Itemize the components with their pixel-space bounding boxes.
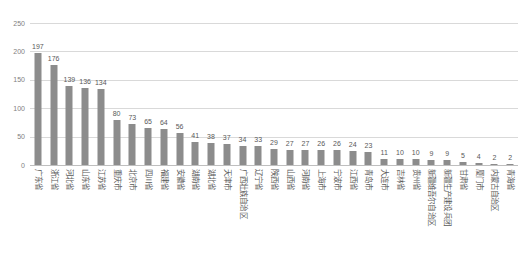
x-axis-tick-label: 新疆维吾尔自治区: [427, 169, 435, 226]
bar: [381, 159, 388, 165]
x-axis-tick-label: 福建省: [160, 169, 168, 190]
bar-chart: 050100150200250 197广东省176浙江省139河北省136山东省…: [0, 0, 524, 258]
x-axis-tick-label: 江西省: [349, 169, 357, 190]
x-axis-tick-label: 吉林省: [396, 169, 404, 190]
bar-value-label: 33: [254, 136, 262, 143]
bar-group: 29陕西省: [266, 0, 282, 258]
x-axis-tick-label: 内蒙古自治区: [490, 169, 498, 212]
bar: [318, 150, 325, 165]
x-axis-tick-label: 新疆生产建设兵团: [443, 169, 451, 226]
x-axis-tick-label: 厦门市: [475, 169, 483, 190]
bar-group: 2青海省: [502, 0, 518, 258]
x-axis-tick-label: 青海省: [506, 169, 514, 190]
bar: [255, 146, 262, 165]
x-axis-tick-label: 湖南省: [191, 169, 199, 190]
x-axis-tick-label: 青岛市: [364, 169, 372, 190]
bar: [129, 124, 136, 165]
bar: [145, 128, 152, 165]
bar-group: 10贵州省: [408, 0, 424, 258]
bar-group: 4厦门市: [471, 0, 487, 258]
plot-area: 197广东省176浙江省139河北省136山东省134江苏省80重庆市73北京市…: [30, 0, 518, 258]
x-axis-tick-label: 广东省: [34, 169, 42, 190]
bar-group: 26上海市: [313, 0, 329, 258]
bar-group: 9新疆维吾尔自治区: [424, 0, 440, 258]
x-axis-tick-label: 贵州省: [412, 169, 420, 190]
bar: [349, 151, 356, 165]
bar: [333, 150, 340, 165]
x-axis-tick-label: 山西省: [286, 169, 294, 190]
bar-value-label: 56: [176, 123, 184, 130]
bar-group: 73北京市: [124, 0, 140, 258]
x-axis-tick-label: 甘肃省: [459, 169, 467, 190]
bar: [302, 150, 309, 165]
bar-group: 65四川省: [140, 0, 156, 258]
x-axis-tick-label: 重庆市: [113, 169, 121, 190]
bar-group: 134江苏省: [93, 0, 109, 258]
bar: [239, 146, 246, 165]
bar: [286, 150, 293, 165]
bar-group: 27河南省: [298, 0, 314, 258]
bar-group: 11大连市: [376, 0, 392, 258]
x-axis-tick-label: 河北省: [65, 169, 73, 190]
bar-group: 24江西省: [345, 0, 361, 258]
bar-value-label: 9: [429, 150, 433, 157]
bar-group: 37天津市: [219, 0, 235, 258]
bar-group: 38湖北省: [203, 0, 219, 258]
bar-value-label: 136: [79, 78, 91, 85]
bar-value-label: 11: [381, 149, 388, 156]
bar: [396, 159, 403, 165]
bar: [208, 143, 215, 165]
bar-value-label: 37: [223, 134, 231, 141]
bar-value-label: 2: [508, 154, 512, 161]
y-axis-tick-label: 50: [17, 133, 25, 140]
bar-group: 9新疆生产建设兵团: [439, 0, 455, 258]
bar-group: 64福建省: [156, 0, 172, 258]
y-axis-tick-label: 0: [21, 162, 25, 169]
bar: [176, 133, 183, 165]
x-axis-tick-label: 上海市: [317, 169, 325, 190]
x-axis-tick-label: 安徽省: [176, 169, 184, 190]
x-axis-tick-label: 四川省: [144, 169, 152, 190]
bar: [223, 144, 230, 165]
x-axis-tick-label: 北京市: [128, 169, 136, 190]
bar: [475, 163, 482, 165]
bar: [491, 164, 498, 165]
bar-group: 23青岛市: [361, 0, 377, 258]
bar-group: 27山西省: [282, 0, 298, 258]
x-axis-tick-label: 宁波市: [333, 169, 341, 190]
bar: [270, 149, 277, 165]
bar-value-label: 27: [302, 140, 310, 147]
bar: [113, 120, 120, 165]
bar-value-label: 65: [144, 118, 152, 125]
bar-value-label: 24: [349, 141, 357, 148]
bar-group: 197广东省: [30, 0, 46, 258]
bar-value-label: 10: [412, 149, 420, 156]
bar: [459, 162, 466, 165]
bar-value-label: 5: [461, 152, 465, 159]
bar-group: 136山东省: [77, 0, 93, 258]
bar-group: 56安徽省: [172, 0, 188, 258]
x-axis-tick-label: 广西壮族自治区: [239, 169, 247, 219]
x-axis-tick-label: 陕西省: [270, 169, 278, 190]
y-axis-tick-label: 250: [13, 20, 25, 27]
bar-value-label: 10: [396, 149, 404, 156]
bar-group: 34广西壮族自治区: [235, 0, 251, 258]
x-axis-tick-label: 大连市: [380, 169, 388, 190]
bar-value-label: 34: [239, 136, 247, 143]
bar-value-label: 73: [128, 114, 136, 121]
bar-group: 80重庆市: [109, 0, 125, 258]
x-axis-tick-label: 浙江省: [50, 169, 58, 190]
bar: [97, 89, 104, 165]
bar-value-label: 176: [48, 55, 60, 62]
bar-group: 5甘肃省: [455, 0, 471, 258]
bar-group: 139河北省: [61, 0, 77, 258]
x-axis-tick-label: 天津市: [223, 169, 231, 190]
bar-value-label: 38: [207, 133, 215, 140]
bar-value-label: 27: [286, 140, 294, 147]
bar-value-label: 26: [317, 140, 325, 147]
bar-value-label: 29: [270, 139, 278, 146]
y-axis-tick-label: 100: [13, 105, 25, 112]
bar-value-label: 139: [63, 76, 75, 83]
bar-value-label: 26: [333, 140, 341, 147]
bar-value-label: 80: [113, 110, 121, 117]
